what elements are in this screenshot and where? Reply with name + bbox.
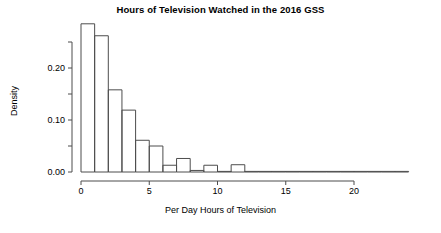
histogram-bars <box>81 24 409 172</box>
histogram-bar <box>381 171 395 172</box>
histogram-bar <box>327 171 341 172</box>
x-tick-label: 0 <box>78 186 83 196</box>
histogram-bar <box>177 158 191 172</box>
histogram-bar <box>136 140 150 172</box>
y-tick-label: 0.10 <box>47 115 65 125</box>
histogram-bar <box>368 171 382 172</box>
histogram-bar <box>245 171 259 172</box>
x-tick-label: 15 <box>281 186 291 196</box>
histogram-bar <box>340 171 354 172</box>
y-tick-label: 0.00 <box>47 167 65 177</box>
y-axis: 0.000.100.20 <box>47 42 72 177</box>
histogram-bar <box>218 171 232 172</box>
x-tick-label: 10 <box>212 186 222 196</box>
histogram-bar <box>108 90 122 172</box>
plot-canvas: 0.000.100.20 05101520 <box>0 0 441 233</box>
histogram-bar <box>190 170 204 172</box>
histogram-bar <box>299 171 313 172</box>
histogram-bar <box>354 171 368 172</box>
histogram-bar <box>81 24 95 172</box>
histogram-bar <box>95 36 109 172</box>
histogram-bar <box>122 110 136 172</box>
histogram-bar <box>313 171 327 172</box>
histogram-bar <box>204 165 218 172</box>
histogram-bar <box>231 165 245 172</box>
histogram-bar <box>395 171 409 172</box>
histogram-bar <box>258 171 272 172</box>
x-tick-label: 20 <box>349 186 359 196</box>
histogram-bar <box>286 171 300 172</box>
histogram-bar <box>272 171 286 172</box>
y-tick-label: 0.20 <box>47 63 65 73</box>
x-tick-label: 5 <box>147 186 152 196</box>
histogram-bar <box>163 165 177 172</box>
histogram-plot: Hours of Television Watched in the 2016 … <box>0 0 441 233</box>
histogram-bar <box>149 146 163 172</box>
x-axis: 05101520 <box>78 181 359 196</box>
